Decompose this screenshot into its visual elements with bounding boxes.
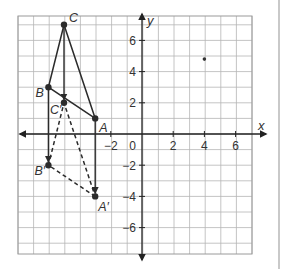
stray-mark [203,57,207,61]
y-tick-label: 4 [129,65,136,79]
y-tick-label: −6 [122,221,136,235]
grid-border [18,16,252,254]
coordinate-plane: xy −2246642−2−4−60 ABCA′B′C′ [0,0,283,269]
vertex-points [45,22,206,200]
y-tick-label: 2 [129,96,136,110]
origin-label: 0 [129,139,136,153]
vertex-label: C [69,11,79,25]
vertex-point [61,22,67,28]
vertex-point [92,193,98,199]
vertex-label: C′ [50,103,62,117]
y-tick-label: −4 [122,190,136,204]
x-tick-label: −2 [104,139,118,153]
vertex-point [61,100,67,106]
x-axis-label: x [257,118,265,133]
x-tick-label: 2 [170,139,177,153]
y-axis-label: y [146,13,155,28]
diagram-frame: xy −2246642−2−4−60 ABCA′B′C′ [0,0,283,269]
vertex-point [45,84,51,90]
vertex-label: B [35,86,43,100]
vertex-point [92,115,98,121]
y-tick-label: 6 [129,34,136,48]
vertex-label: B′ [34,164,45,178]
x-tick-label: 4 [201,139,208,153]
page-edge [278,0,280,269]
y-tick-label: −2 [122,159,136,173]
vertex-label: A′ [97,200,109,214]
grid [18,16,252,254]
vertex-labels: ABCA′B′C′ [34,11,109,215]
x-tick-label: 6 [232,139,239,153]
vertex-point [45,162,51,168]
vertex-label: A [98,121,107,135]
